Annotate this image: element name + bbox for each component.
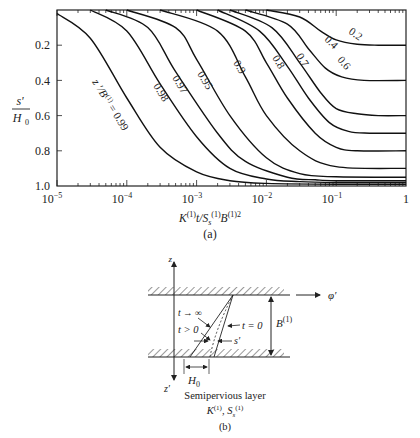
caption-a: (a) bbox=[203, 227, 216, 241]
t-infinity-leader bbox=[198, 318, 210, 327]
drawdown-label: s′ bbox=[234, 335, 241, 346]
figure: 0.2 0.4 0.6 0.8 1.0 s' H 0 10−5 10−4 10−… bbox=[0, 0, 420, 438]
t-zero-label: t = 0 bbox=[242, 320, 263, 331]
curve-label-0.97: 0.97 bbox=[170, 73, 191, 96]
y-label-sub: 0 bbox=[25, 118, 29, 127]
phi-label: φ′ bbox=[328, 289, 337, 301]
z-label: z bbox=[167, 254, 172, 264]
curve-label-0.4: 0.4 bbox=[323, 33, 342, 52]
x-tick-label: 1 bbox=[403, 192, 409, 206]
y-axis-ticks bbox=[57, 45, 62, 151]
panel-b-diagram: z z′ φ′ B(1) t → ∞ t > 0 t = 0 s′ bbox=[148, 254, 337, 433]
y-tick-label: 0.8 bbox=[35, 144, 50, 158]
panel-a-chart: 0.2 0.4 0.6 0.8 1.0 s' H 0 10−5 10−4 10−… bbox=[12, 10, 409, 241]
top-boundary-hatch bbox=[148, 287, 284, 295]
curve-label-0.98: 0.98 bbox=[151, 81, 172, 104]
t-positive-label: t > 0 bbox=[178, 324, 199, 335]
curve-0.7 bbox=[218, 10, 406, 133]
curve-label-0.8: 0.8 bbox=[270, 53, 288, 71]
curve-label-0.2: 0.2 bbox=[347, 25, 365, 43]
figure-canvas: 0.2 0.4 0.6 0.8 1.0 s' H 0 10−5 10−4 10−… bbox=[0, 0, 420, 438]
t-infinity-label: t → ∞ bbox=[178, 308, 202, 318]
y-tick-label: 0.2 bbox=[35, 38, 50, 52]
y-label-numerator: s' bbox=[16, 94, 24, 108]
y-tick-label: 0.6 bbox=[35, 109, 50, 123]
y-axis-label: s' H 0 bbox=[12, 94, 30, 127]
x-tick-label: 10−3 bbox=[182, 191, 203, 206]
layer-name: Semipervious layer bbox=[184, 390, 266, 401]
x-axis-label: K(1)t/Ss(1)B(1)2 bbox=[178, 210, 241, 227]
t-zero-leader bbox=[228, 325, 240, 326]
y-tick-label: 1.0 bbox=[35, 179, 50, 193]
caption-b: (b) bbox=[219, 421, 232, 433]
x-tick-label: 10−5 bbox=[42, 191, 63, 206]
curve-label-0.6: 0.6 bbox=[335, 54, 353, 73]
head-label: H0 bbox=[187, 374, 200, 389]
curve-label-0.99: z ′/B(1) = 0.99 bbox=[90, 76, 132, 133]
curve-label-0.9: 0.9 bbox=[231, 58, 249, 76]
curve-0.9 bbox=[160, 10, 406, 169]
layer-properties: K(1), Ss(1) bbox=[206, 404, 244, 419]
y-label-denominator: H bbox=[12, 111, 23, 125]
z-prime-label: z′ bbox=[163, 383, 171, 394]
x-tick-label: 10−4 bbox=[112, 191, 133, 206]
curve-label-0.7: 0.7 bbox=[294, 51, 312, 69]
x-tick-labels: 10−5 10−4 10−3 10−2 10−1 1 bbox=[42, 191, 409, 206]
y-tick-label: 0.4 bbox=[35, 74, 50, 88]
x-tick-label: 10−1 bbox=[322, 191, 343, 206]
thickness-label: B(1) bbox=[276, 315, 292, 329]
x-tick-label: 10−2 bbox=[252, 191, 273, 206]
